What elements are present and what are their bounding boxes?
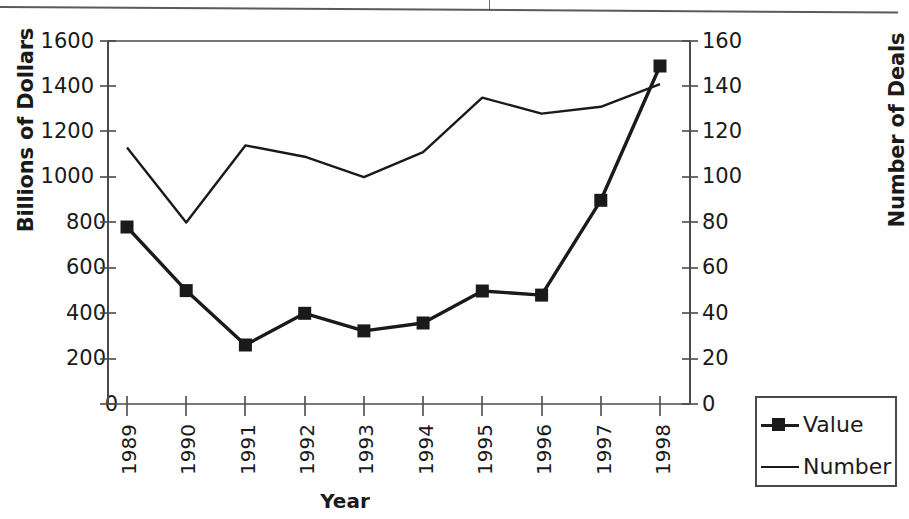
- series-line-number: [127, 84, 660, 222]
- x-axis-ticks: [127, 396, 660, 416]
- legend-label-number: Number: [803, 456, 891, 478]
- data-point-marker: [476, 285, 489, 298]
- legend-item-value: Value: [757, 410, 899, 440]
- data-point-marker: [594, 194, 607, 207]
- legend-item-number: Number: [757, 452, 899, 482]
- legend-symbol-value-icon: [757, 414, 803, 436]
- legend-label-value: Value: [803, 414, 863, 436]
- data-point-marker: [239, 339, 252, 352]
- chart-legend: Value Number: [755, 396, 897, 487]
- series-line-value: [127, 66, 660, 345]
- data-point-marker: [121, 221, 134, 234]
- data-point-marker: [357, 324, 370, 337]
- data-point-marker: [535, 289, 548, 302]
- data-point-marker: [654, 60, 667, 73]
- data-point-marker: [180, 284, 193, 297]
- data-point-marker: [417, 317, 430, 330]
- legend-symbol-number-icon: [757, 456, 803, 478]
- data-point-marker: [298, 307, 311, 320]
